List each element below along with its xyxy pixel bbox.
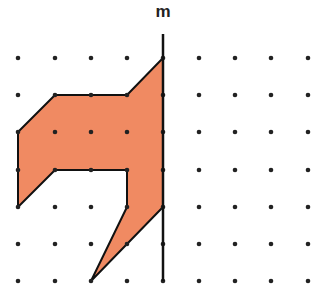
grid-dot <box>269 279 274 284</box>
grid-dot <box>269 93 274 98</box>
dot-grid-canvas <box>0 0 325 290</box>
grid-dot <box>306 93 311 98</box>
grid-dot <box>16 56 21 61</box>
grid-dot <box>269 56 274 61</box>
grid-dot <box>125 242 130 247</box>
grid-dot <box>53 205 58 210</box>
grid-dot <box>16 130 21 135</box>
grid-dot <box>16 168 21 173</box>
grid-dot <box>197 242 202 247</box>
grid-dot <box>197 279 202 284</box>
grid-dot <box>125 205 130 210</box>
grid-dot <box>233 168 238 173</box>
grid-dot <box>89 130 94 135</box>
grid-dot <box>89 205 94 210</box>
grid-dot <box>53 168 58 173</box>
grid-dot <box>197 130 202 135</box>
grid-dot <box>233 93 238 98</box>
grid-dot <box>53 56 58 61</box>
grid-dot <box>89 242 94 247</box>
grid-dot <box>269 242 274 247</box>
grid-dot <box>233 130 238 135</box>
grid-dot <box>233 205 238 210</box>
grid-dot <box>306 56 311 61</box>
grid-dot <box>89 56 94 61</box>
grid-dot <box>16 93 21 98</box>
grid-dot <box>306 168 311 173</box>
grid-dot <box>306 130 311 135</box>
grid-dot <box>16 242 21 247</box>
grid-dot <box>306 242 311 247</box>
grid-dot <box>89 279 94 284</box>
grid-dot <box>16 205 21 210</box>
grid-dot <box>197 205 202 210</box>
grid-dot <box>197 168 202 173</box>
grid-dot <box>197 56 202 61</box>
grid-dot <box>269 130 274 135</box>
mirror-line-label: m <box>155 2 170 22</box>
grid-dot <box>197 93 202 98</box>
grid-dot <box>269 168 274 173</box>
grid-dot <box>53 93 58 98</box>
grid-dot <box>233 279 238 284</box>
grid-dot <box>306 205 311 210</box>
grid-dot <box>125 93 130 98</box>
grid-dot <box>53 279 58 284</box>
grid-dot <box>89 168 94 173</box>
grid-dot <box>306 279 311 284</box>
grid-dot <box>125 279 130 284</box>
grid-dot <box>16 279 21 284</box>
grid-dot <box>89 93 94 98</box>
grid-dot <box>233 56 238 61</box>
grid-dot <box>125 168 130 173</box>
grid-dot <box>53 242 58 247</box>
grid-dot <box>53 130 58 135</box>
grid-dot <box>269 205 274 210</box>
grid-dot <box>233 242 238 247</box>
grid-dot <box>125 56 130 61</box>
grid-dot <box>125 130 130 135</box>
